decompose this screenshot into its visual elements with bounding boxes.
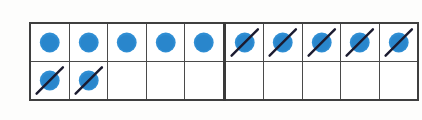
ten-frame-row [30, 23, 418, 62]
counter-icon [108, 24, 146, 61]
crossed-out-counter-icon [70, 62, 108, 99]
ten-frame-cell[interactable] [108, 62, 147, 101]
ten-frame-cell[interactable] [146, 23, 185, 62]
counter-icon [70, 24, 108, 61]
ten-frame-cell[interactable] [69, 62, 108, 101]
ten-frame-cell[interactable] [185, 23, 225, 62]
ten-frame-cell[interactable] [264, 62, 303, 101]
ten-frame-cell[interactable] [379, 62, 418, 101]
crossed-out-counter-icon [380, 24, 418, 61]
ten-frame-cell[interactable] [341, 62, 380, 101]
crossed-out-counter-icon [303, 24, 341, 61]
crossed-out-counter-icon [31, 62, 69, 99]
ten-frame-cell[interactable] [224, 62, 264, 101]
counter-icon [147, 24, 185, 61]
crossed-out-counter-icon [226, 24, 264, 61]
ten-frame-cell[interactable] [264, 23, 303, 62]
crossed-out-counter-icon [264, 24, 302, 61]
ten-frame-row [30, 62, 418, 101]
ten-frame-figure [0, 0, 422, 120]
ten-frame-cell[interactable] [69, 23, 108, 62]
ten-frame-cell[interactable] [30, 23, 69, 62]
ten-frame-cell[interactable] [302, 62, 341, 101]
ten-frame-cell[interactable] [146, 62, 185, 101]
ten-frame-grid-wrapper [29, 22, 419, 101]
crossed-out-counter-icon [341, 24, 379, 61]
ten-frame-cell[interactable] [379, 23, 418, 62]
ten-frame-table [29, 22, 419, 101]
ten-frame-cell[interactable] [341, 23, 380, 62]
ten-frame-body [30, 23, 418, 100]
counter-icon [185, 24, 223, 61]
ten-frame-cell[interactable] [108, 23, 147, 62]
ten-frame-cell[interactable] [30, 62, 69, 101]
ten-frame-cell[interactable] [224, 23, 264, 62]
counter-icon [31, 24, 69, 61]
ten-frame-cell[interactable] [302, 23, 341, 62]
ten-frame-cell[interactable] [185, 62, 225, 101]
